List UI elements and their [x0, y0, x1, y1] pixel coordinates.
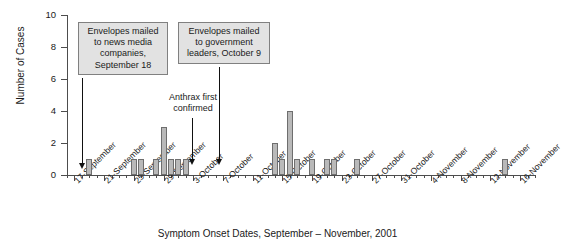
annotation-anthrax-first-confirmed: Anthrax first confirmed	[150, 92, 236, 114]
x-tick-minor	[275, 175, 276, 178]
annotation-arrow-head-news-media	[79, 163, 85, 169]
x-tick-minor	[245, 175, 246, 178]
annotation-arrow-head-government	[216, 159, 222, 165]
annotation-line: Envelopes mailed	[83, 26, 163, 37]
y-tick	[61, 111, 67, 112]
bar	[153, 159, 159, 175]
y-tick-label: 0	[30, 170, 56, 180]
bar	[175, 159, 181, 175]
x-tick-minor	[97, 175, 98, 178]
annotation-arrow-head-anthrax	[189, 159, 195, 165]
annotation-line: Anthrax first	[150, 92, 236, 103]
x-tick-minor	[67, 175, 68, 178]
bar	[309, 159, 315, 175]
y-axis-title: Number of Cases	[15, 6, 26, 126]
x-tick-minor	[216, 175, 217, 178]
x-tick-minor	[297, 175, 298, 178]
bar	[161, 127, 167, 175]
x-tick-minor	[334, 175, 335, 178]
annotation-envelopes-news-media: Envelopes mailed to news media companies…	[78, 22, 168, 75]
annotation-line: to news media	[83, 37, 163, 48]
annotation-line: companies,	[83, 48, 163, 59]
y-tick	[61, 143, 67, 144]
y-tick-label: 6	[30, 74, 56, 84]
bar	[502, 159, 508, 175]
x-tick-minor	[394, 175, 395, 178]
y-axis-line	[67, 15, 68, 176]
y-tick-label: 8	[30, 42, 56, 52]
annotation-line: leaders, October 9	[183, 48, 265, 59]
x-tick-minor	[89, 175, 90, 178]
bar	[183, 159, 189, 175]
bar	[138, 159, 144, 175]
x-tick-minor	[186, 175, 187, 178]
annotation-arrow-stem-anthrax	[192, 118, 193, 160]
x-tick-minor	[305, 175, 306, 178]
annotation-arrow-stem-news-media	[82, 78, 83, 164]
annotation-line: Envelopes mailed	[183, 26, 265, 37]
y-tick-label: 4	[30, 106, 56, 116]
chart-caption: Symptom Onset Dates, September – Novembe…	[0, 228, 555, 239]
y-tick-label: 10	[30, 10, 56, 20]
bar	[331, 159, 337, 175]
bar	[131, 159, 137, 175]
y-tick	[61, 47, 67, 48]
bar	[168, 159, 174, 175]
x-tick-minor	[156, 175, 157, 178]
x-tick-minor	[453, 175, 454, 178]
annotation-line: confirmed	[150, 103, 236, 114]
annotation-envelopes-government: Envelopes mailed to government leaders, …	[178, 22, 270, 64]
y-tick	[61, 15, 67, 16]
x-tick-minor	[513, 175, 514, 178]
bar	[86, 159, 92, 175]
bar	[279, 159, 285, 175]
x-tick-minor	[364, 175, 365, 178]
y-tick	[61, 79, 67, 80]
bar	[287, 111, 293, 175]
x-tick-minor	[483, 175, 484, 178]
x-tick-minor	[424, 175, 425, 178]
bar	[272, 143, 278, 175]
x-tick-minor	[126, 175, 127, 178]
x-tick-label: 7-October	[222, 152, 255, 185]
y-tick-label: 2	[30, 138, 56, 148]
annotation-line: to government	[183, 37, 265, 48]
bar	[294, 159, 300, 175]
annotation-line: September 18	[83, 60, 163, 71]
x-tick-minor	[505, 175, 506, 178]
bar	[354, 159, 360, 175]
bar	[324, 159, 330, 175]
